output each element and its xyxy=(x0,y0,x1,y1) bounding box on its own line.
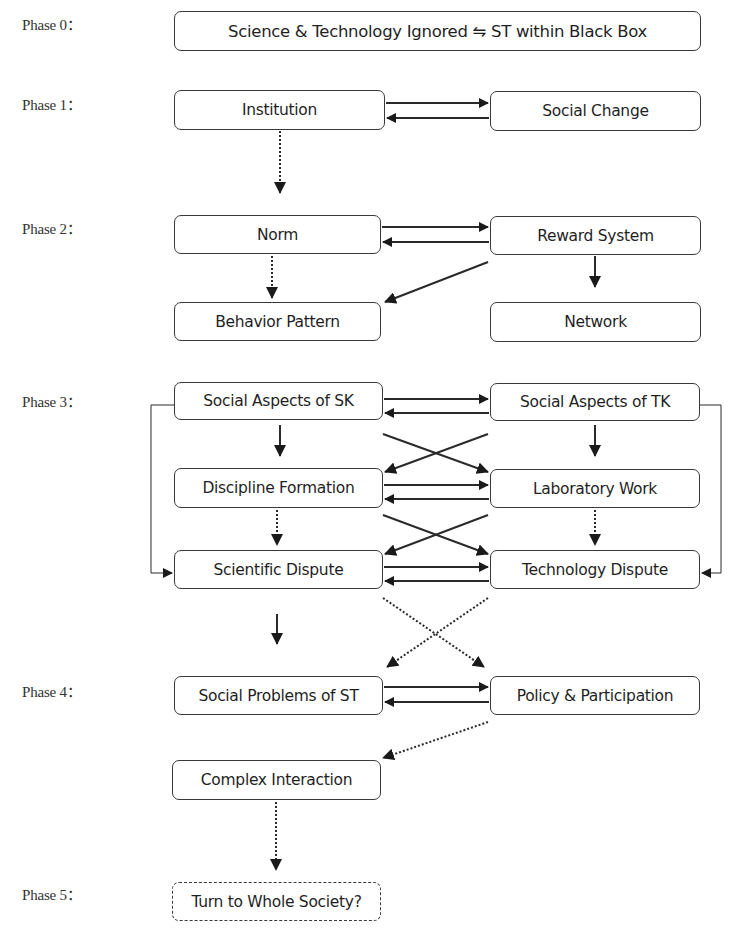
node-social-aspects-tk: Social Aspects of TK xyxy=(490,383,700,421)
node-reward-system: Reward System xyxy=(490,216,701,255)
arrow-techdispute-to-socialproblems xyxy=(387,598,488,667)
node-social-problems-st: Social Problems of ST xyxy=(174,676,383,715)
node-discipline-formation: Discipline Formation xyxy=(174,468,383,508)
node-norm: Norm xyxy=(174,215,381,254)
node-network: Network xyxy=(490,302,701,342)
node-social-change: Social Change xyxy=(490,91,701,131)
node-complex-interaction: Complex Interaction xyxy=(172,760,381,800)
arrow-reward-to-behavior xyxy=(385,262,488,302)
node-behavior-pattern: Behavior Pattern xyxy=(174,302,381,341)
diagram-canvas: Phase 0： Phase 1： Phase 2： Phase 3： Phas… xyxy=(0,0,735,945)
node-institution: Institution xyxy=(174,90,385,130)
connector-sk-to-scidispute xyxy=(151,405,174,573)
node-social-aspects-sk: Social Aspects of SK xyxy=(174,382,383,420)
arrow-policy-to-complex xyxy=(383,722,488,758)
arrow-scidispute-to-policy xyxy=(383,598,484,667)
node-scientific-dispute: Scientific Dispute xyxy=(174,550,383,589)
node-policy-participation: Policy & Participation xyxy=(490,676,700,715)
node-whole-society: Turn to Whole Society? xyxy=(172,882,381,921)
node-technology-dispute: Technology Dispute xyxy=(490,550,700,589)
connector-tk-to-techdispute xyxy=(700,405,721,573)
node-phase0: Science & Technology Ignored ⇋ ST within… xyxy=(174,11,701,51)
node-laboratory-work: Laboratory Work xyxy=(490,469,700,508)
